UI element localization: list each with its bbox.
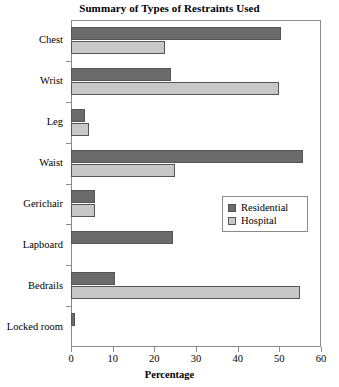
bar-leg-residential xyxy=(71,109,85,122)
bar-waist-hospital xyxy=(71,164,175,177)
y-axis-tick xyxy=(66,224,72,225)
y-axis-tick xyxy=(66,143,72,144)
chart-title: Summary of Types of Restraints Used xyxy=(0,2,339,14)
bar-chest-residential xyxy=(71,27,281,40)
bar-bedrails-residential xyxy=(71,272,115,285)
x-axis-tick xyxy=(238,347,239,352)
x-axis-tick xyxy=(113,347,114,352)
bar-leg-hospital xyxy=(71,123,89,136)
bar-gerichair-hospital xyxy=(71,204,95,217)
x-axis-tick xyxy=(196,347,197,352)
legend-swatch-residential-icon xyxy=(228,204,236,212)
x-axis-tick-label: 40 xyxy=(223,353,253,365)
y-axis-label-chest: Chest xyxy=(39,34,63,46)
x-axis-title: Percentage xyxy=(0,369,339,380)
bar-bedrails-hospital xyxy=(71,286,300,299)
chart-container: Summary of Types of Restraints Used Ches… xyxy=(0,0,339,387)
x-axis-tick xyxy=(279,347,280,352)
y-axis-label-bedrails: Bedrails xyxy=(28,280,63,292)
y-axis-label-lapboard: Lapboard xyxy=(23,239,63,251)
bar-wrist-residential xyxy=(71,68,171,81)
legend-swatch-hospital-icon xyxy=(228,217,236,225)
x-axis-tick-label: 0 xyxy=(56,353,86,365)
x-axis-tick-label: 30 xyxy=(181,353,211,365)
x-axis-tick-label: 10 xyxy=(98,353,128,365)
y-axis-tick xyxy=(66,306,72,307)
y-axis-label-wrist: Wrist xyxy=(40,75,63,87)
y-axis-tick xyxy=(66,61,72,62)
bar-waist-residential xyxy=(71,150,303,163)
y-axis-label-waist: Waist xyxy=(39,157,63,169)
x-axis-tick-label: 50 xyxy=(264,353,294,365)
bar-wrist-hospital xyxy=(71,82,279,95)
y-axis-category-labels: ChestWristLegWaistGerichairLapboardBedra… xyxy=(0,20,68,347)
chart-legend: Residential Hospital xyxy=(222,196,308,232)
legend-item-hospital: Hospital xyxy=(228,214,302,227)
y-axis-tick xyxy=(66,265,72,266)
legend-label-residential: Residential xyxy=(241,202,288,214)
bar-gerichair-residential xyxy=(71,190,95,203)
legend-label-hospital: Hospital xyxy=(241,215,277,227)
bars-layer xyxy=(71,20,321,347)
y-axis-label-leg: Leg xyxy=(47,116,63,128)
y-axis-tick xyxy=(66,184,72,185)
bar-chest-hospital xyxy=(71,41,165,54)
y-axis-tick xyxy=(66,102,72,103)
x-axis-tick xyxy=(154,347,155,352)
x-axis-tick-label: 20 xyxy=(139,353,169,365)
bar-lapboard-residential xyxy=(71,231,173,244)
y-axis-label-gerichair: Gerichair xyxy=(23,198,63,210)
y-axis-label-locked-room: Locked room xyxy=(7,321,63,333)
bar-locked-room-residential xyxy=(71,313,75,326)
x-axis-tick xyxy=(71,347,72,352)
x-axis-tick xyxy=(321,347,322,352)
legend-item-residential: Residential xyxy=(228,201,302,214)
x-axis-tick-label: 60 xyxy=(306,353,336,365)
